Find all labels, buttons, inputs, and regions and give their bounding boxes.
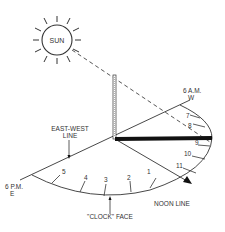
hour-1: 1: [147, 168, 151, 175]
east-west-line-label-2: LINE: [63, 132, 78, 139]
hour-5: 5: [62, 168, 66, 175]
east-label: E: [10, 190, 15, 197]
noon-arrow-icon: [183, 176, 192, 184]
clock-face-arrow-icon: [109, 196, 112, 200]
hour-8: 8: [188, 122, 192, 129]
hour-11: 11: [176, 162, 183, 169]
sun-label: SUN: [50, 37, 65, 44]
hour-7: 7: [186, 112, 190, 119]
hour-9: 9: [195, 139, 199, 146]
six-am-label: 6 A.M.: [183, 87, 202, 94]
sundial-diagram: SUN 7 8 9 10 11 1 2 3 4 5: [0, 0, 225, 232]
hour-4: 4: [84, 174, 88, 181]
hour-3: 3: [104, 176, 108, 183]
hour-10: 10: [184, 150, 192, 157]
hour-2: 2: [127, 174, 131, 181]
noon-line-label: NOON LINE: [154, 200, 190, 207]
clock-face-label: "CLOCK" FACE: [87, 213, 133, 220]
east-west-line-label: EAST-WEST: [51, 125, 89, 132]
six-pm-label: 6 P.M.: [5, 183, 23, 190]
gnomon: [113, 75, 116, 139]
west-label: W: [188, 94, 195, 101]
